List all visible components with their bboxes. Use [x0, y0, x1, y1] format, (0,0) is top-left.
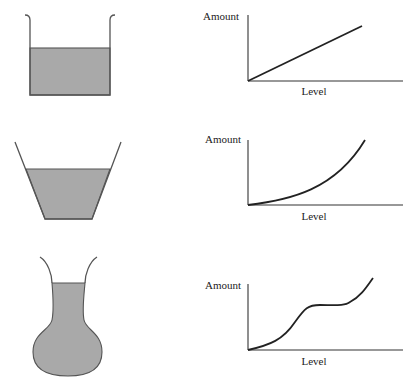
beaker-container	[25, 15, 115, 95]
graph-3-curve	[248, 278, 373, 350]
graph-3-xlabel: Level	[301, 355, 326, 367]
graph-3: Amount Level	[205, 278, 403, 367]
flask-container	[33, 257, 102, 376]
graph-1-ylabel: Amount	[203, 10, 239, 22]
flask-right-lip	[85, 257, 97, 283]
graph-2: Amount Level	[205, 133, 403, 222]
graph-1: Amount Level	[203, 10, 403, 97]
graph-1-curve	[248, 26, 362, 81]
trapezoid-liquid	[26, 169, 110, 219]
graph-2-curve	[248, 140, 365, 205]
figure-canvas: Amount Level Amount Level Amount Level	[0, 0, 416, 387]
flask-liquid	[33, 283, 102, 376]
flask-left-lip	[40, 257, 52, 283]
graph-1-xlabel: Level	[301, 85, 326, 97]
graph-2-ylabel: Amount	[205, 133, 241, 145]
trapezoid-container	[15, 142, 121, 219]
graph-2-xlabel: Level	[301, 210, 326, 222]
beaker-liquid	[30, 48, 110, 95]
graph-3-ylabel: Amount	[205, 279, 241, 291]
